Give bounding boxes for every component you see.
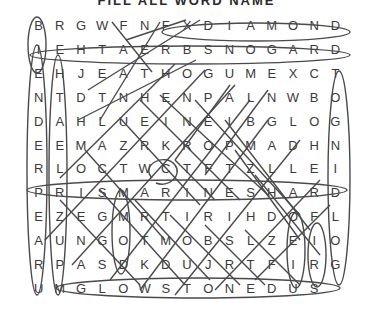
grid-cell-r11-c7[interactable]: D (155, 252, 176, 276)
grid-cell-r12-c7[interactable]: S (155, 276, 176, 300)
grid-cell-r4-c11[interactable]: L (240, 86, 261, 110)
grid-cell-r5-c15[interactable]: G (325, 109, 346, 133)
grid-cell-r8-c13[interactable]: A (282, 181, 303, 205)
grid-cell-r3-c3[interactable]: J (70, 62, 91, 86)
grid-cell-r11-c10[interactable]: R (219, 252, 240, 276)
grid-cell-r4-c15[interactable]: O (325, 86, 346, 110)
grid-cell-r7-c8[interactable]: T (176, 157, 197, 181)
grid-cell-r1-c7[interactable]: F (155, 14, 176, 38)
grid-cell-r2-c8[interactable]: B (176, 38, 197, 62)
grid-cell-r6-c6[interactable]: R (134, 133, 155, 157)
grid-cell-r5-c9[interactable]: E (198, 109, 219, 133)
grid-cell-r3-c2[interactable]: H (49, 62, 70, 86)
grid-cell-r5-c7[interactable]: I (155, 109, 176, 133)
grid-cell-r7-c12[interactable]: L (261, 157, 282, 181)
grid-cell-r3-c8[interactable]: O (176, 62, 197, 86)
grid-cell-r8-c9[interactable]: N (198, 181, 219, 205)
grid-cell-r10-c12[interactable]: Z (261, 229, 282, 253)
grid-cell-r8-c10[interactable]: E (219, 181, 240, 205)
grid-cell-r7-c5[interactable]: T (113, 157, 134, 181)
grid-cell-r4-c3[interactable]: D (70, 86, 91, 110)
grid-cell-r4-c13[interactable]: W (282, 86, 303, 110)
grid-cell-r7-c9[interactable]: F (198, 157, 219, 181)
grid-cell-r6-c3[interactable]: M (70, 133, 91, 157)
grid-cell-r1-c13[interactable]: O (282, 14, 303, 38)
grid-cell-r8-c6[interactable]: A (134, 181, 155, 205)
grid-cell-r10-c1[interactable]: A (28, 229, 49, 253)
grid-cell-r8-c8[interactable]: I (176, 181, 197, 205)
grid-cell-r10-c14[interactable]: I (304, 229, 325, 253)
grid-cell-r9-c6[interactable]: R (134, 205, 155, 229)
grid-cell-r9-c8[interactable]: I (176, 205, 197, 229)
grid-cell-r1-c14[interactable]: N (304, 14, 325, 38)
grid-cell-r5-c2[interactable]: A (49, 109, 70, 133)
grid-cell-r5-c11[interactable]: B (240, 109, 261, 133)
grid-cell-r6-c4[interactable]: A (92, 133, 113, 157)
grid-cell-r7-c1[interactable]: R (28, 157, 49, 181)
grid-cell-r1-c4[interactable]: W (92, 14, 113, 38)
grid-cell-r11-c5[interactable]: D (113, 252, 134, 276)
grid-cell-r5-c12[interactable]: G (261, 109, 282, 133)
grid-cell-r2-c6[interactable]: E (134, 38, 155, 62)
grid-cell-r1-c10[interactable]: I (219, 14, 240, 38)
grid-cell-r7-c4[interactable]: C (92, 157, 113, 181)
grid-cell-r7-c14[interactable]: E (304, 157, 325, 181)
grid-cell-r2-c2[interactable]: E (49, 38, 70, 62)
grid-cell-r5-c1[interactable]: D (28, 109, 49, 133)
grid-cell-r10-c15[interactable]: O (325, 229, 346, 253)
grid-cell-r3-c9[interactable]: G (198, 62, 219, 86)
grid-cell-r11-c4[interactable]: S (92, 252, 113, 276)
grid-cell-r12-c8[interactable]: T (176, 276, 197, 300)
grid-cell-r9-c15[interactable]: L (325, 205, 346, 229)
grid-cell-r6-c8[interactable]: R (176, 133, 197, 157)
grid-cell-r7-c3[interactable]: O (70, 157, 91, 181)
grid-cell-r11-c6[interactable]: K (134, 252, 155, 276)
grid-cell-r1-c8[interactable]: X (176, 14, 197, 38)
grid-cell-r3-c5[interactable]: A (113, 62, 134, 86)
grid-cell-r5-c14[interactable]: O (304, 109, 325, 133)
grid-cell-r2-c12[interactable]: G (261, 38, 282, 62)
grid-cell-r6-c9[interactable]: O (198, 133, 219, 157)
grid-cell-r3-c15[interactable]: T (325, 62, 346, 86)
grid-cell-r2-c1[interactable]: I (28, 38, 49, 62)
grid-cell-r1-c6[interactable]: N (134, 14, 155, 38)
grid-cell-r6-c14[interactable]: H (304, 133, 325, 157)
grid-cell-r7-c13[interactable]: L (282, 157, 303, 181)
grid-cell-r7-c10[interactable]: T (219, 157, 240, 181)
grid-cell-r10-c13[interactable]: E (282, 229, 303, 253)
grid-cell-r9-c11[interactable]: H (240, 205, 261, 229)
grid-cell-r9-c2[interactable]: Z (49, 205, 70, 229)
grid-cell-r1-c5[interactable]: F (113, 14, 134, 38)
grid-cell-r9-c13[interactable]: O (282, 205, 303, 229)
grid-cell-r9-c9[interactable]: R (198, 205, 219, 229)
grid-cell-r4-c8[interactable]: N (176, 86, 197, 110)
grid-cell-r12-c10[interactable]: N (219, 276, 240, 300)
grid-cell-r3-c14[interactable]: C (304, 62, 325, 86)
grid-cell-r2-c5[interactable]: A (113, 38, 134, 62)
grid-cell-r5-c10[interactable]: I (219, 109, 240, 133)
grid-cell-r11-c1[interactable]: R (28, 252, 49, 276)
grid-cell-r2-c11[interactable]: O (240, 38, 261, 62)
grid-cell-r5-c5[interactable]: U (113, 109, 134, 133)
grid-cell-r11-c11[interactable]: T (240, 252, 261, 276)
grid-cell-r12-c1[interactable]: U (28, 276, 49, 300)
grid-cell-r8-c14[interactable]: R (304, 181, 325, 205)
grid-cell-r2-c4[interactable]: T (92, 38, 113, 62)
grid-cell-r1-c11[interactable]: A (240, 14, 261, 38)
grid-cell-r7-c11[interactable]: Z (240, 157, 261, 181)
grid-cell-r8-c12[interactable]: H (261, 181, 282, 205)
grid-cell-r9-c4[interactable]: G (92, 205, 113, 229)
grid-cell-r12-c3[interactable]: G (70, 276, 91, 300)
grid-cell-r8-c11[interactable]: S (240, 181, 261, 205)
grid-cell-r1-c1[interactable]: B (28, 14, 49, 38)
grid-cell-r6-c10[interactable]: P (219, 133, 240, 157)
grid-cell-r3-c1[interactable]: E (28, 62, 49, 86)
grid-cell-r3-c13[interactable]: X (282, 62, 303, 86)
grid-cell-r11-c13[interactable]: I (282, 252, 303, 276)
grid-cell-r7-c6[interactable]: W (134, 157, 155, 181)
grid-cell-r9-c12[interactable]: D (261, 205, 282, 229)
grid-cell-r2-c9[interactable]: S (198, 38, 219, 62)
grid-cell-r10-c4[interactable]: G (92, 229, 113, 253)
grid-cell-r6-c1[interactable]: E (28, 133, 49, 157)
grid-cell-r6-c11[interactable]: M (240, 133, 261, 157)
